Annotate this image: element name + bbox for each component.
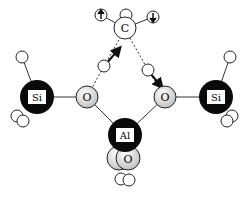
atom-oxygen-left: O	[76, 86, 98, 108]
atom-carbon: C	[114, 17, 136, 39]
svg-text:O: O	[160, 91, 169, 104]
molecular-diagram: C O O Si Si O Al	[0, 0, 250, 197]
atom-silicon-left: Si	[20, 80, 54, 114]
svg-text:Si: Si	[32, 92, 42, 103]
svg-text:C: C	[121, 22, 129, 35]
svg-text:Si: Si	[211, 92, 221, 103]
atom-silicon-right: Si	[199, 80, 233, 114]
atom-oxygen-right: O	[154, 86, 176, 108]
svg-text:Al: Al	[119, 130, 130, 141]
svg-text:O: O	[123, 153, 132, 166]
atom-aluminum: Al	[108, 118, 142, 152]
svg-text:O: O	[82, 91, 91, 104]
